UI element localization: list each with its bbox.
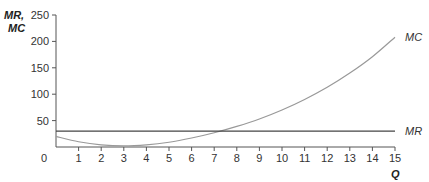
- x-tick-label: 2: [98, 152, 104, 164]
- y-axis: 50100150200250: [31, 9, 56, 147]
- x-tick-label: 11: [299, 152, 310, 164]
- x-tick-label: 14: [366, 152, 378, 164]
- y-axis-title-line-1: MR,: [4, 9, 24, 21]
- mc-line: [56, 37, 395, 146]
- y-tick-label: 50: [37, 115, 49, 127]
- x-tick-label: 13: [344, 152, 356, 164]
- x-tick-label: 10: [276, 152, 288, 164]
- x-tick-label: 8: [234, 152, 240, 164]
- x-tick-label: 3: [121, 152, 127, 164]
- x-tick-label: 5: [166, 152, 172, 164]
- chart-canvas: 50100150200250 0123456789101112131415 MC…: [0, 0, 429, 182]
- y-tick-label: 250: [31, 9, 49, 21]
- y-tick-label: 200: [31, 35, 49, 47]
- series-group: MCMR: [56, 31, 422, 146]
- y-axis-title-line-2: MC: [8, 22, 26, 34]
- mc-label: MC: [405, 31, 422, 43]
- y-tick-label: 150: [31, 62, 49, 74]
- x-tick-label: 0: [41, 152, 47, 164]
- x-tick-label: 12: [321, 152, 333, 164]
- x-axis-title: Q: [391, 168, 400, 180]
- x-tick-label: 6: [189, 152, 195, 164]
- y-tick-label: 100: [31, 88, 49, 100]
- x-tick-label: 7: [211, 152, 217, 164]
- mr-label: MR: [405, 125, 422, 137]
- x-tick-label: 1: [76, 152, 82, 164]
- x-tick-label: 9: [256, 152, 262, 164]
- x-axis: 0123456789101112131415: [41, 147, 401, 164]
- x-tick-label: 4: [143, 152, 149, 164]
- x-tick-label: 15: [389, 152, 401, 164]
